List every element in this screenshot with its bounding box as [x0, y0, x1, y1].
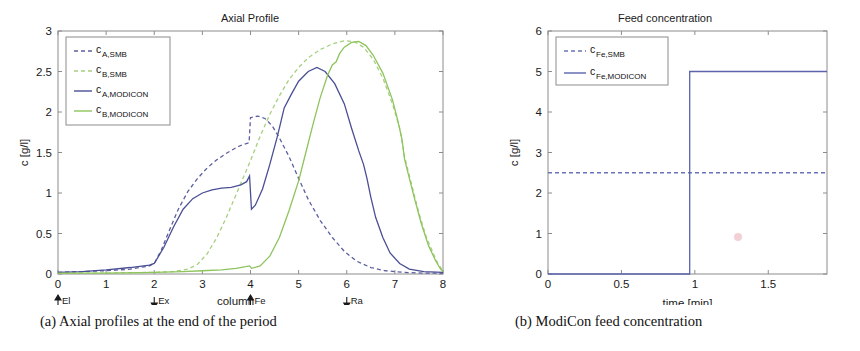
panel-axial-profile: Axial Profile 01234567800.511.522.53colu… — [0, 0, 470, 305]
port-label-ex: Ex — [158, 295, 169, 305]
legend-sublabel-0: Fe,SMB — [596, 50, 625, 59]
port-arrow-el — [55, 295, 61, 305]
feed-concentration-title: Feed concentration — [618, 12, 712, 24]
legend-label-3: c — [96, 103, 101, 115]
x-axis-label: time [min] — [663, 297, 713, 305]
y-tick-label: 2 — [536, 187, 542, 199]
legend-sublabel-0: A,SMB — [102, 50, 127, 59]
legend-label-2: c — [96, 83, 101, 95]
y-axis-label: c [g/l] — [18, 139, 30, 166]
x-tick-label: 1 — [692, 278, 698, 290]
x-tick-label: 0.5 — [613, 278, 629, 290]
port-label-ra: Ra — [351, 295, 364, 305]
y-tick-label: 0 — [46, 268, 52, 280]
y-tick-label: 6 — [536, 25, 542, 37]
x-tick-label: 8 — [440, 278, 446, 290]
legend-label-1: c — [96, 63, 101, 75]
y-tick-label: 2 — [46, 106, 52, 118]
x-tick-label: 0 — [545, 278, 551, 290]
legend-sublabel-2: A,MODICON — [102, 90, 148, 99]
x-tick-label: 1.5 — [760, 278, 776, 290]
x-tick-label: 0 — [55, 278, 61, 290]
y-tick-label: 5 — [536, 66, 542, 78]
x-tick-label: 6 — [344, 278, 350, 290]
x-tick-label: 1 — [103, 278, 109, 290]
y-tick-label: 1.5 — [36, 147, 52, 159]
y-tick-label: 0 — [536, 268, 542, 280]
axial-profile-svg: Axial Profile 01234567800.511.522.53colu… — [0, 0, 470, 305]
legend-sublabel-3: B,MODICON — [102, 110, 148, 119]
port-label-el: El — [62, 295, 70, 305]
captions: (a) Axial profiles at the end of the per… — [0, 305, 860, 351]
y-tick-label: 2.5 — [36, 66, 52, 78]
figure-row: Axial Profile 01234567800.511.522.53colu… — [0, 0, 860, 305]
y-tick-label: 0.5 — [36, 228, 52, 240]
port-label-fe: Fe — [255, 295, 266, 305]
x-tick-label: 2 — [151, 278, 157, 290]
x-tick-label: 7 — [392, 278, 398, 290]
scan-artifact — [734, 233, 742, 241]
x-tick-label: 4 — [247, 278, 254, 290]
y-tick-label: 3 — [46, 25, 52, 37]
port-arrow-ra — [344, 297, 350, 305]
caption-a: (a) Axial profiles at the end of the per… — [40, 313, 277, 330]
legend-label-0: c — [590, 43, 595, 55]
y-tick-label: 1 — [46, 187, 52, 199]
x-tick-label: 3 — [199, 278, 205, 290]
panel-feed-concentration: Feed concentration 00.511.50123456time [… — [470, 0, 860, 305]
y-tick-label: 1 — [536, 228, 542, 240]
legend-sublabel-1: Fe,MODICON — [596, 72, 646, 81]
y-tick-label: 4 — [536, 106, 543, 118]
caption-b: (b) ModiCon feed concentration — [515, 313, 702, 330]
axial-profile-title: Axial Profile — [221, 12, 279, 24]
x-tick-label: 5 — [295, 278, 301, 290]
y-tick-label: 3 — [536, 147, 542, 159]
feed-concentration-svg: Feed concentration 00.511.50123456time [… — [470, 0, 860, 305]
legend-label-0: c — [96, 43, 101, 55]
legend-sublabel-1: B,SMB — [102, 70, 127, 79]
legend-label-1: c — [590, 65, 595, 77]
y-axis-label: c [g/l] — [508, 139, 520, 166]
series-c-Fe-MODICON — [548, 72, 827, 275]
port-arrow-ex — [151, 297, 157, 305]
